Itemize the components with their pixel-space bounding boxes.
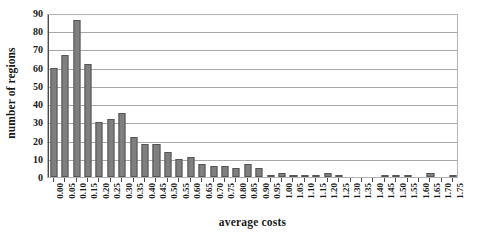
x-axis-tick-mark	[110, 178, 111, 182]
x-axis-tick-label: 1.75	[456, 183, 465, 199]
x-axis-tick-label: 0.90	[262, 183, 271, 199]
bar-slot	[242, 14, 253, 177]
x-axis-tick-label: 1.40	[376, 183, 385, 199]
bar	[393, 175, 400, 177]
bar-slot	[436, 14, 447, 177]
x-axis-tick-mark	[98, 178, 99, 182]
x-axis-tick-mark	[304, 178, 305, 182]
bar-slot	[174, 14, 185, 177]
y-axis-tick-label: 30	[33, 118, 43, 128]
x-axis-tick-mark	[338, 178, 339, 182]
x-axis-tick-mark	[258, 178, 259, 182]
bar-slot	[265, 14, 276, 177]
bar	[130, 137, 137, 177]
bar	[221, 166, 228, 177]
bar	[153, 144, 160, 177]
bar	[427, 173, 434, 177]
bar-slot	[391, 14, 402, 177]
x-axis-tick-mark	[418, 178, 419, 182]
x-axis-tick-mark	[372, 178, 373, 182]
x-axis-tick-mark	[53, 178, 54, 182]
bar	[301, 175, 308, 177]
bar	[73, 20, 80, 177]
x-axis-tick-mark	[121, 178, 122, 182]
bar	[256, 168, 263, 177]
x-axis-tick-label: 0.10	[79, 183, 88, 199]
y-axis-tick-label: 50	[33, 82, 43, 92]
x-axis-tick-mark	[407, 178, 408, 182]
bar-slot	[231, 14, 242, 177]
x-axis-tick-mark	[201, 178, 202, 182]
y-axis-tick-label: 20	[33, 137, 43, 147]
x-axis-tick-mark	[224, 178, 225, 182]
bar	[119, 113, 126, 177]
bar	[96, 122, 103, 177]
x-axis-tick-label: 1.50	[399, 183, 408, 199]
bar-slot	[288, 14, 299, 177]
x-axis-tick-mark	[315, 178, 316, 182]
bar	[244, 164, 251, 177]
x-axis-tick-label: 0.35	[136, 183, 145, 199]
bar	[267, 175, 274, 177]
x-axis-tick-label: 1.05	[296, 183, 305, 199]
bar-slot	[208, 14, 219, 177]
bar	[233, 168, 240, 177]
x-axis-tick-mark	[76, 178, 77, 182]
bar	[50, 68, 57, 177]
bar-slot	[82, 14, 93, 177]
x-axis-tick-label: 0.00	[56, 183, 65, 199]
bar-slot	[128, 14, 139, 177]
bar-slot	[379, 14, 390, 177]
bar-slot	[448, 14, 459, 177]
x-axis-tick-mark	[281, 178, 282, 182]
bar-slot	[219, 14, 230, 177]
y-axis-tick-label: 10	[33, 155, 43, 165]
bar-slot	[254, 14, 265, 177]
x-axis-tick-label: 1.60	[422, 183, 431, 199]
bar-slot	[162, 14, 173, 177]
x-axis-tick-mark	[178, 178, 179, 182]
bar-slot	[413, 14, 424, 177]
x-axis-tick-marks	[47, 178, 458, 182]
bar-slot	[94, 14, 105, 177]
x-axis-tick-label: 1.25	[342, 183, 351, 199]
bar-slot	[71, 14, 82, 177]
bar	[210, 166, 217, 177]
x-axis-tick-label: 0.55	[182, 183, 191, 199]
bar-chart-figure: number of regions 0102030405060708090 0.…	[0, 0, 479, 237]
bar	[164, 152, 171, 178]
x-axis-tick-mark	[270, 178, 271, 182]
bar	[199, 164, 206, 177]
x-axis-tick-label: 0.40	[148, 183, 157, 199]
y-axis-tick-label: 60	[33, 64, 43, 74]
x-axis-tick-mark	[155, 178, 156, 182]
bar-slot	[299, 14, 310, 177]
bar	[290, 175, 297, 177]
bar	[107, 119, 114, 177]
y-axis-tick-labels: 0102030405060708090	[22, 14, 45, 178]
y-axis-tick-label: 70	[33, 45, 43, 55]
x-axis-tick-label: 0.20	[102, 183, 111, 199]
bar	[278, 173, 285, 177]
y-axis-title: number of regions	[0, 0, 22, 185]
bar-slot	[356, 14, 367, 177]
x-axis-tick-labels: 0.000.050.100.150.200.250.300.350.400.45…	[47, 183, 458, 217]
bar-slot	[402, 14, 413, 177]
x-axis-tick-label: 1.35	[364, 183, 373, 199]
x-axis-tick-label: 0.45	[159, 183, 168, 199]
x-axis-tick-label: 0.65	[205, 183, 214, 199]
x-axis-tick-label: 0.80	[239, 183, 248, 199]
bar	[84, 64, 91, 177]
x-axis-tick-mark	[429, 178, 430, 182]
x-axis-tick-mark	[350, 178, 351, 182]
x-axis-tick-mark	[133, 178, 134, 182]
bar	[324, 173, 331, 177]
bar-slot	[48, 14, 59, 177]
x-axis-tick-label: 1.00	[285, 183, 294, 199]
bar	[313, 175, 320, 177]
x-axis-tick-label: 1.10	[307, 183, 316, 199]
x-axis-tick-mark	[167, 178, 168, 182]
x-axis-tick-label: 0.60	[193, 183, 202, 199]
x-axis-tick-mark	[361, 178, 362, 182]
y-axis-tick-label: 0	[38, 173, 43, 183]
